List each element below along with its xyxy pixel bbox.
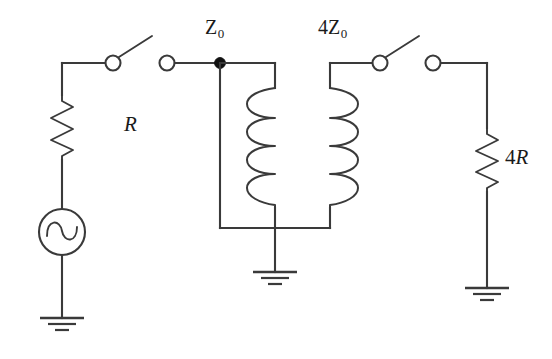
ground-source: [40, 318, 84, 330]
switch-left-blade[interactable]: [119, 36, 152, 57]
switch-left-pivot-terminal[interactable]: [106, 56, 121, 71]
terminal-primary-input[interactable]: [160, 56, 175, 71]
label-secondary-impedance-prefix: 4: [318, 16, 328, 38]
label-load-resistor-symbol: R: [516, 145, 529, 169]
label-load-resistor-prefix: 4: [505, 145, 516, 169]
terminal-load-input[interactable]: [426, 56, 441, 71]
label-secondary-impedance-symbol: Z: [328, 16, 340, 38]
source-resistor-zigzag: [51, 95, 73, 160]
load-branch: [426, 56, 510, 301]
ground-transformer-center: [253, 272, 297, 284]
source-branch: [39, 63, 106, 330]
label-secondary-impedance: 4Z0: [318, 17, 347, 37]
label-primary-impedance-symbol: Z: [205, 16, 217, 38]
switch-right-pivot-terminal[interactable]: [373, 56, 388, 71]
label-secondary-impedance-subscript: 0: [341, 26, 348, 41]
label-source-resistor: R: [124, 114, 137, 135]
transformer-primary-coil: [247, 88, 275, 208]
primary-side: [160, 56, 276, 229]
secondary-side: [220, 63, 373, 284]
switch-right[interactable]: [373, 36, 420, 71]
label-load-resistor: 4R: [505, 147, 528, 168]
circuit-diagram: R 4R Z0 4Z0: [0, 0, 552, 359]
switch-left[interactable]: [106, 36, 153, 71]
load-resistor-zigzag: [476, 128, 498, 192]
ground-load: [465, 288, 509, 300]
label-primary-impedance-subscript: 0: [218, 26, 225, 41]
transformer-secondary-coil: [330, 88, 358, 208]
circuit-schematic-canvas: [0, 0, 552, 359]
switch-right-blade[interactable]: [386, 36, 419, 57]
label-primary-impedance: Z0: [205, 17, 224, 37]
